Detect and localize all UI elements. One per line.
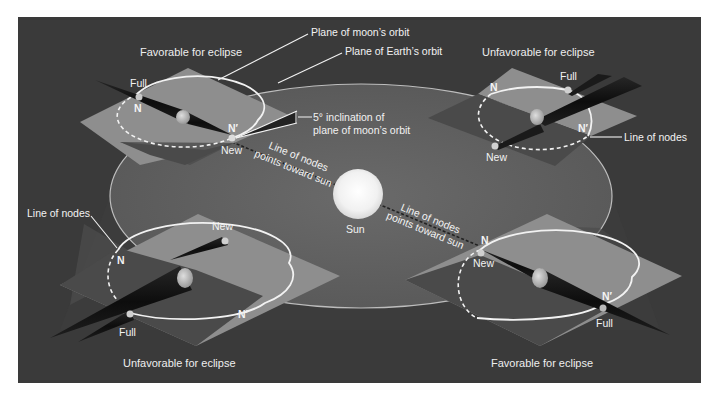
panel-caption: Unfavorable for eclipse bbox=[482, 46, 595, 58]
label-full: Full bbox=[596, 317, 613, 329]
label-new: New bbox=[212, 220, 233, 232]
inclination-label-line2: plane of moon’s orbit bbox=[313, 124, 410, 136]
label-node-prime: N′ bbox=[238, 308, 249, 320]
label-node: N bbox=[481, 234, 489, 246]
panel-caption: Favorable for eclipse bbox=[491, 357, 593, 369]
label-node-prime: N′ bbox=[602, 290, 613, 302]
label-new: New bbox=[486, 151, 507, 163]
callout-line-of-nodes-left: Line of nodes bbox=[27, 207, 90, 219]
eclipse-seasons-diagram: Sun Line of nodes points toward sun Line… bbox=[0, 0, 716, 393]
panel-caption: Unfavorable for eclipse bbox=[123, 357, 236, 369]
label-node: N bbox=[117, 254, 125, 266]
panel-caption: Favorable for eclipse bbox=[140, 46, 242, 58]
label-full: Full bbox=[119, 326, 136, 338]
sun-icon bbox=[333, 169, 383, 219]
label-node-prime: N′ bbox=[228, 122, 239, 134]
sun-label: Sun bbox=[346, 223, 365, 235]
label-full: Full bbox=[560, 70, 577, 82]
label-full: Full bbox=[130, 77, 147, 89]
label-new: New bbox=[473, 257, 494, 269]
callout-moon-plane: Plane of moon’s orbit bbox=[311, 26, 410, 38]
callout-earth-plane: Plane of Earth’s orbit bbox=[345, 45, 442, 57]
callout-line-of-nodes-right: Line of nodes bbox=[624, 131, 687, 143]
label-new: New bbox=[221, 144, 242, 156]
label-node: N bbox=[134, 102, 142, 114]
label-node: N bbox=[490, 81, 498, 93]
inclination-label-line1: 5° inclination of bbox=[313, 111, 384, 123]
label-node-prime: N′ bbox=[578, 122, 589, 134]
